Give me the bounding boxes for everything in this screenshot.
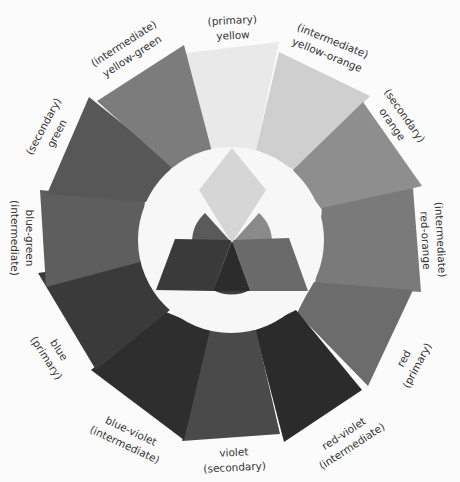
segment-label: blue-green(intermediate): [7, 200, 37, 276]
segment-label: (primary)yellow: [207, 12, 258, 45]
segment-label: violet(secondary): [202, 443, 266, 476]
segment-label: (intermediate)red-orange: [416, 201, 450, 278]
label-line-2: yellow: [208, 27, 258, 45]
color-wheel: [0, 0, 460, 482]
label-line-1: blue-green: [22, 200, 37, 276]
label-line-2: (intermediate): [7, 200, 22, 276]
